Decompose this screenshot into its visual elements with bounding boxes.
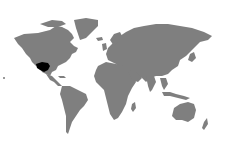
indonesia — [162, 92, 190, 100]
japan — [188, 52, 196, 62]
greenland — [74, 18, 98, 40]
edge-marker — [3, 77, 5, 79]
africa — [94, 62, 136, 120]
new-zealand — [202, 118, 208, 130]
landmasses — [14, 18, 212, 134]
india — [146, 76, 156, 92]
southeast-asia — [160, 78, 168, 90]
madagascar — [131, 102, 136, 112]
iceland — [96, 37, 103, 41]
australia — [172, 102, 196, 122]
arctic-islands — [40, 20, 66, 27]
south-america — [60, 86, 88, 134]
world-map — [0, 0, 230, 151]
british-isles — [102, 43, 107, 51]
central-america — [46, 74, 62, 86]
caribbean — [58, 76, 66, 78]
